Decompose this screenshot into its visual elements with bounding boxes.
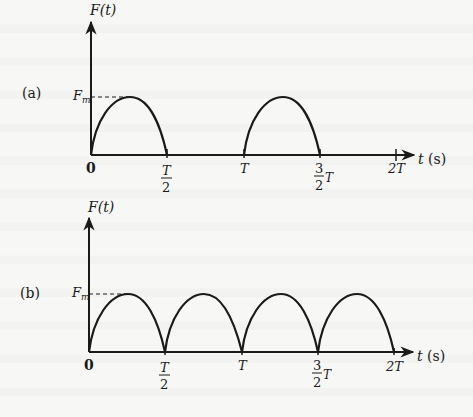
panel-label: (a) <box>22 85 41 101</box>
svg-text:2: 2 <box>160 377 168 392</box>
svg-text:T: T <box>323 368 332 382</box>
panel-label: (b) <box>20 285 40 301</box>
tick-label-2T: 2T <box>385 359 404 374</box>
svg-text:2: 2 <box>315 178 323 193</box>
tick-label-3-half-T: 3 2 T <box>314 161 334 193</box>
pulse-arc-2 <box>165 294 242 352</box>
peak-label: Fm <box>71 285 90 302</box>
panel-b: (b) F(t) t (s) Fm 0 T 2 T 3 2 <box>20 199 445 392</box>
x-axis-label: t (s) <box>418 151 446 167</box>
pulse-arc-1 <box>89 294 165 352</box>
panel-a: (a) F(t) t (s) Fm 0 T 2 T 3 2 T <box>22 2 446 195</box>
peak-label: Fm <box>72 88 91 105</box>
pulse-arc-4 <box>318 294 394 352</box>
svg-text:T: T <box>162 163 172 178</box>
svg-text:3: 3 <box>313 358 321 373</box>
svg-text:3: 3 <box>315 161 323 176</box>
tick-label-T: T <box>238 358 248 373</box>
svg-text:T: T <box>160 360 170 375</box>
origin-label: 0 <box>84 357 94 373</box>
figure: (a) F(t) t (s) Fm 0 T 2 T 3 2 T <box>0 0 473 417</box>
origin-label: 0 <box>86 160 96 176</box>
svg-text:2: 2 <box>162 180 170 195</box>
svg-text:2: 2 <box>313 375 321 390</box>
pulse-arc-1 <box>91 97 167 155</box>
pulse-arc-2 <box>244 97 320 155</box>
x-axis-label: t (s) <box>417 348 445 364</box>
tick-label-half-T: T 2 <box>161 163 172 195</box>
tick-label-half-T: T 2 <box>159 360 170 392</box>
svg-text:T: T <box>325 171 334 185</box>
tick-label-3-half-T: 3 2 T <box>312 358 332 390</box>
pulse-arc-3 <box>242 294 318 352</box>
y-axis-label: F(t) <box>89 2 116 18</box>
tick-label-T: T <box>240 161 250 176</box>
tick-label-2T: 2T <box>387 161 406 176</box>
y-axis-label: F(t) <box>87 199 114 215</box>
